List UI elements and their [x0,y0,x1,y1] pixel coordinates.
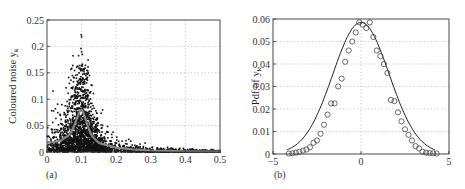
scatter-point [95,148,97,150]
scatter-point [80,132,82,134]
scatter-point [60,119,62,121]
scatter-point [65,119,67,121]
x-tick-label: 0 [45,154,50,165]
scatter-point [80,79,82,81]
scatter-point [85,131,87,133]
scatter-point [144,142,146,144]
figure: 00.10.20.30.40.500.050.10.150.20.25Colou… [0,0,465,189]
scatter-point [93,128,95,130]
scatter-point [86,98,88,100]
scatter-point [90,98,92,100]
data-circle [343,59,348,64]
scatter-point [68,138,70,140]
scatter-point [63,150,65,152]
scatter-point [91,143,93,145]
scatter-point [88,115,90,117]
scatter-point [103,140,105,142]
scatter-point [74,91,76,93]
scatter-point [75,87,77,89]
scatter-point [63,141,65,143]
scatter-point [117,150,119,152]
scatter-point [87,95,89,97]
scatter-point [81,97,83,99]
scatter-point [63,112,65,114]
scatter-point [87,90,89,92]
scatter-point [107,137,109,139]
scatter-point [78,72,80,74]
scatter-point [72,86,74,88]
chart-panel-b: −50500.010.020.030.040.050.06Pdf of yk(b… [250,14,452,182]
scatter-point [80,124,82,126]
scatter-point [74,89,76,91]
scatter-point [92,144,94,146]
scatter-point [82,78,84,80]
scatter-point [82,147,84,149]
scatter-point [79,135,81,137]
y-tick-label: 0 [39,147,44,158]
scatter-point [72,119,74,121]
scatter-point [76,134,78,136]
scatter-point [87,59,89,61]
scatter-point [80,48,82,50]
scatter-point [67,130,69,132]
scatter-point [139,146,141,148]
data-circle [402,127,407,132]
scatter-point [75,131,77,133]
scatter-point [74,95,76,97]
scatter-point [59,114,61,116]
scatter-point [65,142,67,144]
scatter-point [56,129,58,131]
scatter-point [76,101,78,103]
scatter-point [93,107,95,109]
scatter-point [96,135,98,137]
scatter-point [77,147,79,149]
scatter-point [72,140,74,142]
scatter-point [90,120,92,122]
scatter-point [156,147,158,149]
scatter-point [87,77,89,79]
scatter-point [48,148,50,150]
scatter-point [75,128,77,130]
x-tick-label: 0.2 [110,154,123,165]
scatter-point [58,149,60,151]
scatter-point [87,149,89,151]
scatter-point [89,75,91,77]
scatter-point [60,132,62,134]
scatter-point [72,105,74,107]
scatter-point [119,146,121,148]
data-circle [406,132,411,137]
scatter-point [82,90,84,92]
scatter-point [70,121,72,123]
scatter-point [78,139,80,141]
data-circle [374,48,379,53]
scatter-point [114,149,116,151]
scatter-point [76,111,78,113]
scatter-point [77,126,79,128]
data-circle [290,151,295,156]
scatter-point [85,78,87,80]
scatter-point [49,150,51,152]
scatter-point [96,112,98,114]
x-tick-label: 0.3 [145,154,158,165]
scatter-point [96,131,98,133]
scatter-point [65,116,67,118]
scatter-point [139,143,141,145]
scatter-point [71,146,73,148]
scatter-point [95,134,97,136]
scatter-point [88,134,90,136]
scatter-point [96,123,98,125]
scatter-point [101,131,103,133]
scatter-point [72,55,74,57]
scatter-point [73,149,75,151]
scatter-point [82,117,84,119]
scatter-point [52,122,54,124]
scatter-point [80,83,82,85]
scatter-point [52,90,54,92]
scatter-point [76,97,78,99]
scatter-point [90,125,92,127]
scatter-point [87,66,89,68]
scatter-point [77,100,79,102]
scatter-point [82,120,84,122]
data-circle [392,99,397,104]
scatter-point [75,75,77,77]
